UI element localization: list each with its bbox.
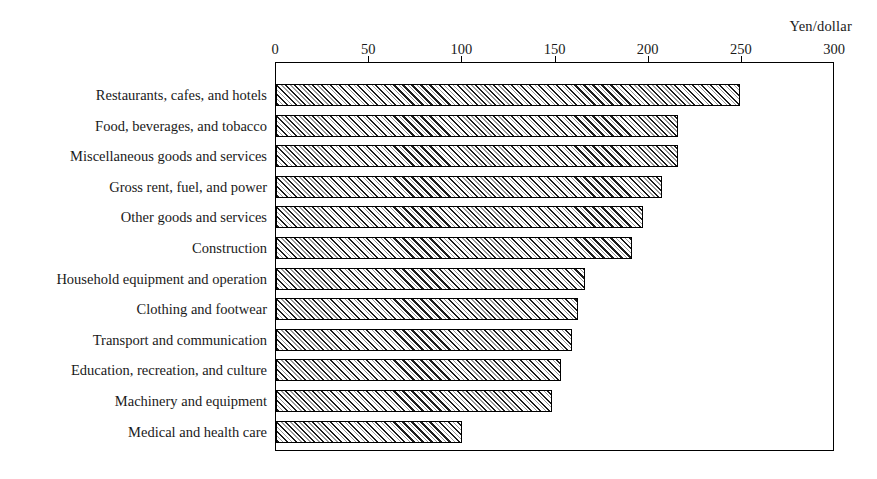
bar	[276, 298, 578, 320]
category-label: Miscellaneous goods and services	[70, 149, 267, 164]
category-label: Education, recreation, and culture	[71, 363, 267, 378]
bar	[276, 329, 572, 351]
category-label: Household equipment and operation	[56, 272, 267, 287]
category-label: Food, beverages, and tobacco	[95, 119, 267, 134]
bar	[276, 145, 678, 167]
y-axis-category-labels: Restaurants, cafes, and hotelsFood, beve…	[0, 62, 271, 451]
bars-container	[276, 63, 833, 450]
category-label: Other goods and services	[121, 210, 267, 225]
category-label: Transport and communication	[93, 333, 267, 348]
category-label: Clothing and footwear	[137, 302, 267, 317]
bar	[276, 206, 643, 228]
bar	[276, 237, 632, 259]
bar	[276, 359, 561, 381]
bar	[276, 84, 740, 106]
category-label: Construction	[192, 241, 267, 256]
bar	[276, 115, 678, 137]
bar	[276, 390, 552, 412]
category-label: Machinery and equipment	[115, 394, 267, 409]
category-label: Restaurants, cafes, and hotels	[96, 88, 267, 103]
category-label: Gross rent, fuel, and power	[109, 180, 267, 195]
bar	[276, 268, 585, 290]
bar	[276, 176, 662, 198]
bar-chart-figure: Yen/dollar 050100150200250300 Restaurant…	[0, 0, 877, 479]
category-label: Medical and health care	[128, 425, 267, 440]
bar	[276, 421, 462, 443]
plot-area	[275, 62, 834, 451]
axis-unit-title: Yen/dollar	[0, 18, 852, 35]
